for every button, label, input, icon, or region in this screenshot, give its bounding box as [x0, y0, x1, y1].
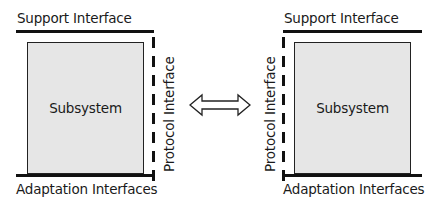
left-support-interface-line [16, 30, 154, 33]
double-arrow-icon [189, 93, 251, 117]
left-subsystem-box: Subsystem [27, 42, 144, 174]
right-adaptation-interfaces-line [283, 174, 422, 177]
left-support-interface-label: Support Interface [17, 10, 132, 26]
right-adaptation-interfaces-label: Adaptation Interfaces [283, 181, 424, 197]
left-adaptation-interfaces-label: Adaptation Interfaces [16, 181, 157, 197]
right-subsystem-box: Subsystem [294, 42, 411, 174]
right-support-interface-label: Support Interface [284, 10, 399, 26]
left-adaptation-interfaces-line [16, 174, 154, 177]
left-protocol-interface-label: Protocol Interface [161, 56, 177, 172]
right-protocol-interface-label: Protocol Interface [262, 56, 278, 172]
right-subsystem-label: Subsystem [316, 100, 389, 116]
left-subsystem-label: Subsystem [49, 100, 122, 116]
right-support-interface-line [283, 30, 422, 33]
right-protocol-interface-dashed-line [282, 37, 285, 183]
left-protocol-interface-dashed-line [152, 37, 155, 183]
